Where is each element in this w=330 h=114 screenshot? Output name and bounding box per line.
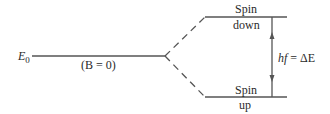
- arrow-up-icon: [270, 32, 275, 39]
- e0-label: E0: [18, 50, 30, 66]
- spin-up-label-line1: Spin: [235, 84, 257, 96]
- dashed-split-up-line: [165, 17, 205, 56]
- spin-down-label-line2: down: [233, 19, 260, 31]
- arrow-down-icon: [270, 75, 275, 82]
- dashed-split-down-line: [165, 56, 205, 97]
- hf-delta-e-label: hf = ΔE: [278, 52, 315, 64]
- spin-up-label-line2: up: [239, 99, 251, 111]
- b-zero-label: (B = 0): [81, 59, 116, 71]
- spin-down-label-line1: Spin: [235, 3, 257, 15]
